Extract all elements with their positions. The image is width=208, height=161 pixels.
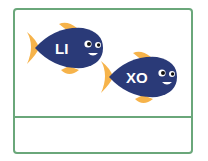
fish-li: LI [25, 18, 107, 80]
fish-label: XO [126, 69, 148, 86]
fish-label: LI [55, 40, 68, 57]
answer-box[interactable] [15, 118, 191, 152]
fish-xo: XO [99, 47, 181, 109]
